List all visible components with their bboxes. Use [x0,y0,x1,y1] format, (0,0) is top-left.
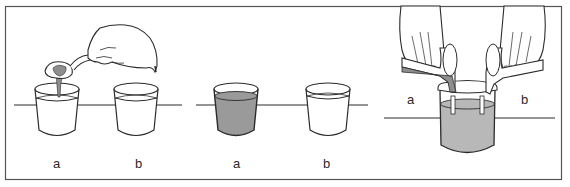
label-b: b [135,156,142,171]
cup-b-icon [114,83,158,136]
label-a: a [53,156,61,171]
label-a: a [407,92,415,107]
label-b: b [521,92,528,107]
label-a: a [233,156,241,171]
label-b: b [323,156,330,171]
cup-b-icon [306,83,350,136]
figure-frame: a b a b [0,0,570,187]
